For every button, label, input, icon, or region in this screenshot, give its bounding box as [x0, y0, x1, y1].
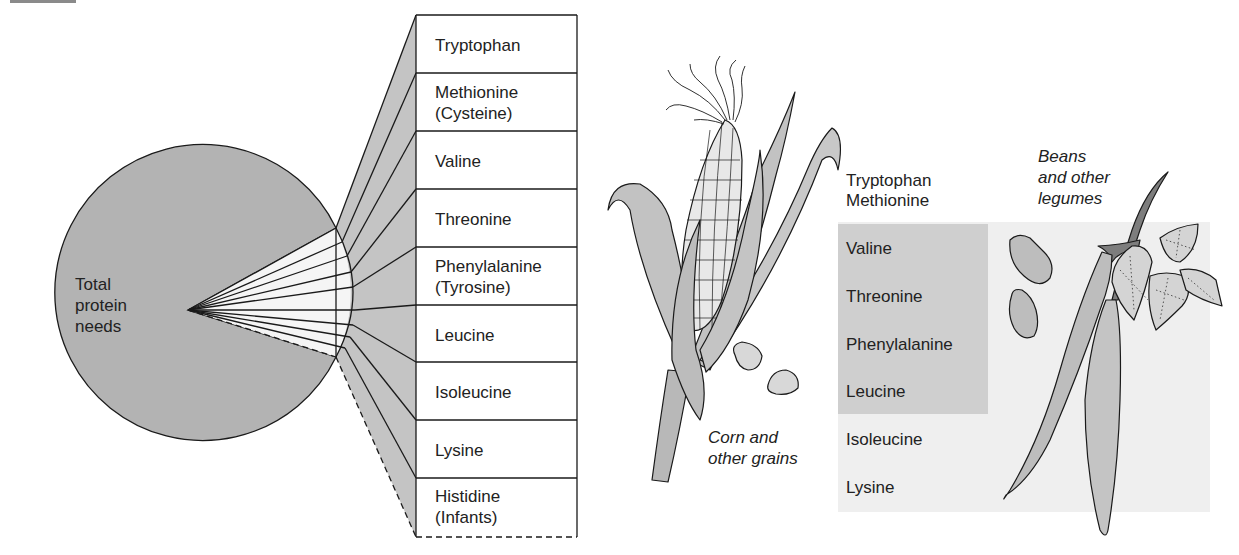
beans-illustration: [1004, 172, 1222, 535]
corn-silk: [666, 56, 745, 124]
amino-acid-name: Leucine: [435, 325, 495, 346]
table-row: Lysine: [416, 420, 577, 478]
amino-acid-note: (Infants): [435, 507, 497, 528]
pie-label-line: Total: [75, 274, 127, 295]
amino-acid-name: Isoleucine: [435, 382, 512, 403]
amino-acid-note: (Cysteine): [435, 103, 512, 124]
pie-label-line: protein: [75, 295, 127, 316]
amino-acid-name: Lysine: [435, 440, 484, 461]
list-item: Threonine: [846, 286, 923, 307]
table-row: Leucine: [416, 305, 577, 363]
amino-acid-name: Histidine: [435, 486, 500, 507]
caption-line: and other: [1038, 167, 1110, 188]
amino-acid-name: Methionine: [435, 82, 518, 103]
corn-illustration: [608, 56, 840, 482]
diagram-graphics: [0, 0, 1239, 555]
table-row: Methionine (Cysteine): [416, 73, 577, 131]
amino-acid-name: Valine: [435, 151, 481, 172]
amino-acid-name: Threonine: [435, 209, 512, 230]
caption-line: Beans: [1038, 146, 1110, 167]
table-row: Valine: [416, 131, 577, 189]
table-row: Histidine (Infants): [416, 478, 577, 537]
pie-label: Total protein needs: [75, 274, 127, 337]
list-item: Tryptophan: [846, 170, 931, 191]
pie-label-line: needs: [75, 316, 127, 337]
list-item: Isoleucine: [846, 429, 923, 450]
caption-line: legumes: [1038, 188, 1110, 209]
table-row: Tryptophan: [416, 15, 577, 73]
beans-caption: Beans and other legumes: [1038, 146, 1110, 209]
corn-caption: Corn and other grains: [708, 427, 798, 469]
list-item: Lysine: [846, 477, 895, 498]
caption-line: other grains: [708, 448, 798, 469]
protein-complementation-diagram: Total protein needs Tryptophan Methionin…: [0, 0, 1239, 555]
amino-acid-name: Tryptophan: [435, 35, 520, 56]
list-item: Phenylalanine: [846, 334, 953, 355]
list-item: Leucine: [846, 381, 906, 402]
amino-acid-note: (Tyrosine): [435, 277, 511, 298]
table-row: Threonine: [416, 189, 577, 247]
amino-acid-name: Phenylalanine: [435, 256, 542, 277]
list-item: Valine: [846, 238, 892, 259]
table-row: Phenylalanine (Tyrosine): [416, 247, 577, 305]
caption-line: Corn and: [708, 427, 798, 448]
list-item: Methionine: [846, 190, 929, 211]
table-row: Isoleucine: [416, 362, 577, 420]
